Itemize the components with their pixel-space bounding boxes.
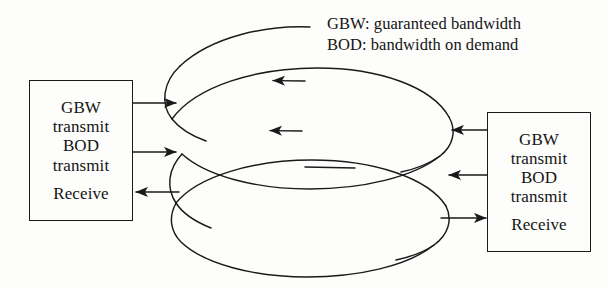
- ring-crossing-stub: [305, 167, 355, 168]
- ring-upper-back-edge: [172, 68, 449, 119]
- left-node-line-gbw: GBW: [61, 98, 101, 117]
- legend-line-bod: BOD: bandwidth on demand: [327, 34, 521, 55]
- right-node-line-receive: Receive: [511, 215, 566, 234]
- right-node-line-gbw: GBW: [519, 130, 559, 149]
- right-node-line-gbw-transmit: transmit: [511, 149, 568, 168]
- right-node-box: GBW transmit BOD transmit Receive: [487, 112, 591, 252]
- legend-line-gbw: GBW: guaranteed bandwidth: [327, 13, 521, 34]
- left-node-line-bod-transmit: transmit: [53, 156, 110, 175]
- legend: GBW: guaranteed bandwidth BOD: bandwidth…: [327, 13, 521, 56]
- ring-lower-front-edge: [171, 203, 434, 277]
- ring-network-figure: GBW transmit BOD transmit Receive GBW tr…: [0, 0, 608, 287]
- ring-lower-right-cap: [396, 206, 449, 260]
- left-node-line-receive: Receive: [53, 184, 108, 203]
- left-node-line-bod: BOD: [63, 136, 99, 155]
- ring-lower-left-cap: [170, 154, 211, 228]
- ring-upper-right-cap: [401, 117, 453, 172]
- left-node-line-gbw-transmit: transmit: [53, 117, 110, 136]
- left-node-box: GBW transmit BOD transmit Receive: [29, 80, 133, 221]
- right-node-line-bod: BOD: [521, 168, 557, 187]
- ring-helix-tail: [180, 27, 310, 66]
- right-node-line-bod-transmit: transmit: [511, 187, 568, 206]
